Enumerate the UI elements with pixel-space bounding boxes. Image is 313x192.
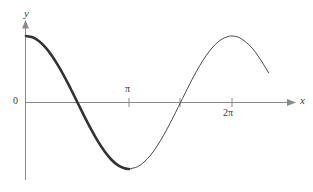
x-tick-label-2pi: 2π bbox=[223, 108, 233, 118]
cosine-curve-figure: y x 0 π 2π bbox=[0, 0, 313, 192]
y-axis bbox=[22, 20, 29, 180]
y-axis-label: y bbox=[24, 8, 29, 19]
plot-canvas bbox=[0, 0, 313, 192]
y-axis-arrowhead bbox=[22, 20, 29, 29]
origin-label: 0 bbox=[13, 96, 18, 106]
x-axis-label: x bbox=[300, 95, 305, 106]
x-axis-arrowhead bbox=[287, 99, 296, 106]
x-tick-label-pi: π bbox=[125, 84, 130, 94]
x-axis bbox=[26, 99, 297, 106]
